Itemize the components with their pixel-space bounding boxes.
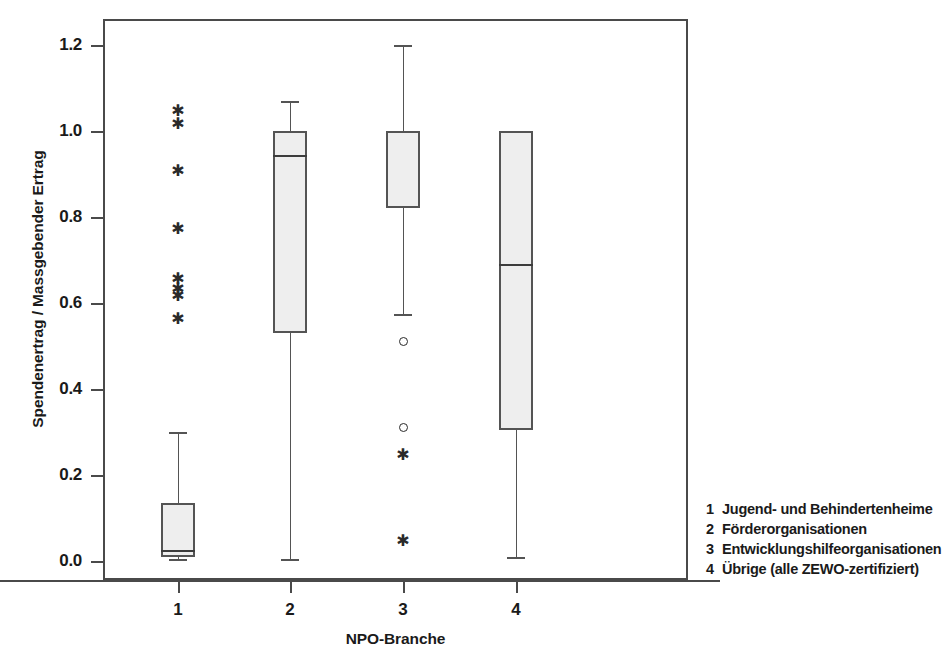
legend-label: Förderorganisationen xyxy=(722,519,942,539)
box-iqr xyxy=(499,131,533,430)
whisker-lower xyxy=(516,430,517,557)
legend-item-2: 2Förderorganisationen xyxy=(706,519,942,539)
whisker-cap-lower xyxy=(507,557,525,559)
legend-item-4: 4Übrige (alle ZEWO-zertifiziert) xyxy=(706,559,942,579)
legend: 1Jugend- und Behindertenheime2Förderorga… xyxy=(706,499,942,579)
legend-key: 4 xyxy=(706,559,722,579)
median-line xyxy=(499,264,533,266)
legend-key: 2 xyxy=(706,519,722,539)
legend-item-3: 3Entwicklungshilfeorganisationen xyxy=(706,539,942,559)
legend-key: 3 xyxy=(706,539,722,559)
legend-label: Entwicklungshilfeorganisationen xyxy=(722,539,942,559)
boxplot-figure: Spendenertrag / Massgebender Ertrag 0.00… xyxy=(0,0,947,664)
legend-item-1: 1Jugend- und Behindertenheime xyxy=(706,499,942,519)
legend-key: 1 xyxy=(706,499,722,519)
legend-label: Jugend- und Behindertenheime xyxy=(722,499,942,519)
legend-label: Übrige (alle ZEWO-zertifiziert) xyxy=(722,559,942,579)
